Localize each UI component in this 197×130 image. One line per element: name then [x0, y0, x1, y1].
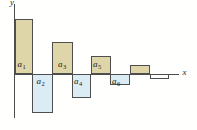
bar-label-a2: a2 [37, 77, 45, 86]
y-axis-label: y [10, 0, 14, 7]
y-axis [14, 4, 15, 119]
alternating-series-figure: y x a1a2a3a4a5a6 [0, 0, 197, 130]
bar-label-a6: a6 [112, 77, 120, 86]
bar-label-a1: a1 [18, 60, 26, 69]
bar-label-a4: a4 [74, 77, 82, 86]
bar-term7 [130, 65, 151, 74]
bar-label-a3: a3 [58, 60, 66, 69]
x-axis-label: x [183, 68, 187, 77]
bar-label-a5: a5 [93, 60, 101, 69]
x-axis [14, 74, 179, 75]
